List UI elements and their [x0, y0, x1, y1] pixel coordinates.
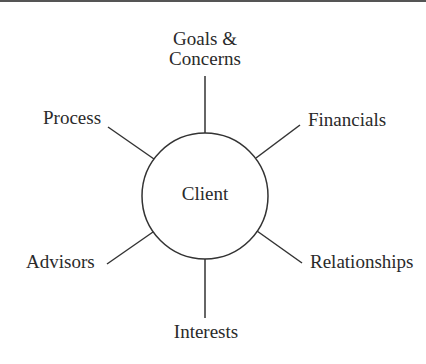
connector-advisors	[107, 232, 153, 264]
node-financials: Financials	[308, 110, 386, 130]
connector-relationships	[257, 231, 302, 263]
node-goals-line-2: Concerns	[144, 49, 266, 69]
node-advisors: Advisors	[26, 252, 95, 272]
connector-financials	[256, 125, 300, 158]
node-process: Process	[43, 108, 101, 128]
node-interests: Interests	[145, 322, 267, 342]
node-relationships: Relationships	[310, 252, 413, 272]
node-goals-concerns: Goals & Concerns	[144, 29, 266, 69]
connector-process	[108, 127, 154, 159]
node-goals-line-1: Goals &	[144, 29, 266, 49]
center-client: Client	[165, 184, 245, 204]
